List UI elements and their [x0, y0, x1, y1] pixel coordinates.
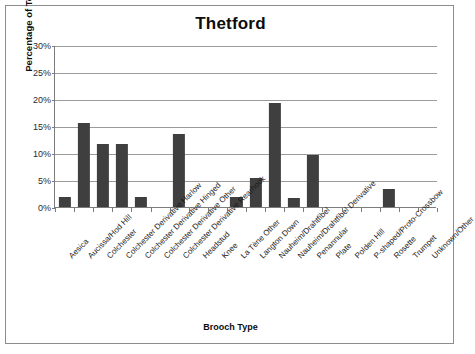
bar[interactable]	[135, 197, 147, 207]
bar-slot	[151, 45, 170, 207]
bar[interactable]	[78, 123, 90, 207]
x-axis-tick-mark	[74, 208, 75, 212]
x-axis-tick-mark	[380, 208, 381, 212]
x-axis-tick-mark	[399, 208, 400, 212]
bar-slot	[380, 45, 399, 207]
x-axis-tick-mark	[93, 208, 94, 212]
bar-slot	[170, 45, 189, 207]
bar-slot	[342, 45, 361, 207]
x-axis-label-0: Aesica	[67, 237, 90, 260]
bar[interactable]	[383, 189, 395, 207]
y-axis-tick-label: 30%	[33, 41, 51, 51]
x-axis-title: Brooch Type	[6, 322, 455, 332]
plot-area: Percentage of Total 0%5%10%15%20%25%30% …	[54, 46, 436, 208]
bar-slot	[131, 45, 150, 207]
chart-frame: Thetford Percentage of Total 0%5%10%15%2…	[5, 5, 454, 344]
bar-slot	[227, 45, 246, 207]
y-axis-tick-label: 20%	[33, 95, 51, 105]
bar-slot	[112, 45, 131, 207]
x-axis-tick-mark	[284, 208, 285, 212]
bar-slot	[284, 45, 303, 207]
y-axis-tick-label: 25%	[33, 68, 51, 78]
bar-slot	[55, 45, 74, 207]
x-axis-tick-mark	[437, 208, 438, 212]
bar-slot	[93, 45, 112, 207]
y-axis-tick-label: 0%	[38, 203, 51, 213]
bar[interactable]	[288, 198, 300, 207]
y-axis-tick-label: 10%	[33, 149, 51, 159]
x-axis-tick-mark	[361, 208, 362, 212]
x-axis-tick-mark	[303, 208, 304, 212]
x-axis-tick-mark	[55, 208, 56, 212]
y-axis-tick-label: 15%	[33, 122, 51, 132]
bar-slot	[322, 45, 341, 207]
bar-slot	[399, 45, 418, 207]
x-axis-tick-mark	[246, 208, 247, 212]
bar[interactable]	[97, 144, 109, 207]
x-axis-tick-mark	[131, 208, 132, 212]
bar-slot	[74, 45, 93, 207]
bar[interactable]	[307, 155, 319, 207]
bar[interactable]	[58, 197, 70, 207]
bar-slot	[303, 45, 322, 207]
bar-slot	[265, 45, 284, 207]
bar[interactable]	[116, 144, 128, 207]
x-axis-tick-mark	[265, 208, 266, 212]
bar-slot	[418, 45, 437, 207]
x-axis-tick-mark	[151, 208, 152, 212]
chart-title: Thetford	[6, 14, 455, 34]
x-axis-tick-mark	[112, 208, 113, 212]
y-axis-tick-label: 5%	[38, 176, 51, 186]
bar[interactable]	[269, 103, 281, 207]
